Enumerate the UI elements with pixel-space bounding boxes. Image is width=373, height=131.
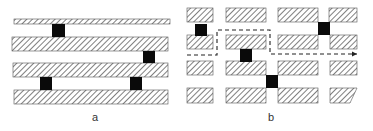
black-link-square <box>240 49 252 62</box>
black-link-square <box>143 51 155 63</box>
panel-b-label: b <box>268 111 274 123</box>
black-link-square <box>40 77 52 90</box>
hatched-block <box>278 35 318 49</box>
hatched-block <box>187 61 213 75</box>
panel-a-diagram <box>12 19 170 104</box>
hatched-block <box>226 8 266 22</box>
hatched-block <box>329 8 357 22</box>
black-link-square <box>52 24 65 37</box>
hatched-strip <box>12 37 168 51</box>
hatched-block <box>278 88 318 103</box>
panel-b-diagram <box>187 8 357 103</box>
hatched-block <box>226 88 266 103</box>
hatched-strip <box>14 90 168 104</box>
hatched-strip <box>13 63 168 77</box>
hatched-block <box>278 61 318 75</box>
hatched-block <box>226 61 266 75</box>
hatched-block <box>330 61 357 75</box>
hatched-block <box>187 88 213 103</box>
hatched-block <box>226 35 266 49</box>
hatched-strip <box>14 19 170 24</box>
black-link-square <box>318 22 330 35</box>
hatched-block <box>330 35 357 49</box>
panel-a-label: a <box>92 111 98 123</box>
arrow-head-icon <box>352 52 357 57</box>
black-link-square <box>195 24 207 36</box>
black-link-square <box>266 75 278 88</box>
hatched-block <box>187 35 213 49</box>
hatched-block-slanted <box>330 88 357 103</box>
black-link-square <box>130 77 142 90</box>
hatched-block <box>278 8 318 22</box>
figure-canvas <box>0 0 373 131</box>
hatched-block <box>187 8 213 22</box>
